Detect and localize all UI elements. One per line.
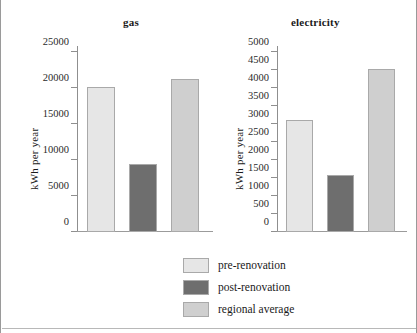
y-axis-tick-label: 25000 [43, 36, 69, 47]
y-axis-tick-label: 10000 [43, 144, 69, 155]
legend-label: pre-renovation [218, 259, 286, 271]
legend-label: post-renovation [218, 281, 290, 293]
plot-area-electricity: 0500100015002000250030003500400045005000 [277, 52, 401, 232]
bar-post-renovation [129, 164, 157, 232]
y-axis-tick-label: 0 [64, 216, 69, 227]
bar-group-electricity [277, 52, 401, 232]
legend-item: regional average [183, 298, 294, 320]
y-axis-tick-label: 5000 [248, 36, 269, 47]
y-axis-tick-label: 1000 [248, 180, 269, 191]
panel-title-electricity: electricity [291, 16, 340, 28]
y-axis-tick-label: 3000 [248, 108, 269, 119]
y-axis-tick-label: 3500 [248, 90, 269, 101]
bar-post-renovation [327, 175, 354, 232]
bar-pre-renovation [286, 120, 313, 232]
y-axis-tick-label: 2500 [248, 126, 269, 137]
y-axis-tick-label: 5000 [48, 180, 69, 191]
bar-regional-average [368, 69, 395, 232]
legend-swatch-regional-average [183, 302, 209, 317]
legend-swatch-post-renovation [183, 280, 209, 295]
y-axis-tick-label: 1500 [248, 162, 269, 173]
legend-item: post-renovation [183, 276, 294, 298]
y-axis-tick-label: 2000 [248, 144, 269, 155]
panel-title-gas: gas [123, 16, 139, 28]
chart-figure: gas kWh per year 05000100001500020000250… [0, 0, 417, 333]
y-axis-tick-label: 4000 [248, 72, 269, 83]
bar-regional-average [171, 79, 199, 232]
plot-area-gas: 0500010000150002000025000 [77, 52, 207, 232]
legend-item: pre-renovation [183, 254, 294, 276]
chart-legend: pre-renovation post-renovation regional … [183, 254, 294, 320]
bar-pre-renovation [87, 87, 115, 232]
y-axis-label-electricity: kWh per year [233, 128, 245, 190]
chart-panel-gas: gas kWh per year 05000100001500020000250… [19, 14, 211, 242]
y-axis-tick-label: 0 [264, 216, 269, 227]
legend-label: regional average [218, 303, 294, 315]
y-axis-tick-label: 20000 [43, 72, 69, 83]
y-axis-tick-label: 4500 [248, 54, 269, 65]
y-axis-tick-label: 15000 [43, 108, 69, 119]
chart-panel-electricity: electricity kWh per year 050010001500200… [225, 14, 407, 242]
legend-swatch-pre-renovation [183, 258, 209, 273]
bar-group-gas [77, 52, 207, 232]
y-axis-tick-label: 500 [253, 198, 269, 209]
y-axis-label-gas: kWh per year [28, 128, 40, 190]
